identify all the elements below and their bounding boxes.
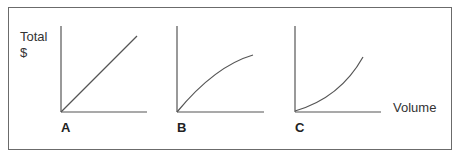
panel-a-curve xyxy=(61,36,137,112)
diagram-graphics xyxy=(0,0,460,159)
panel-label-c: C xyxy=(295,120,304,135)
panel-label-b: B xyxy=(177,120,186,135)
panel-b-axes xyxy=(177,26,264,112)
panel-b-curve xyxy=(177,55,253,112)
x-axis-label: Volume xyxy=(393,100,436,115)
panel-c-curve xyxy=(295,57,363,111)
panel-label-a: A xyxy=(61,120,70,135)
panel-c-axes xyxy=(295,26,381,112)
